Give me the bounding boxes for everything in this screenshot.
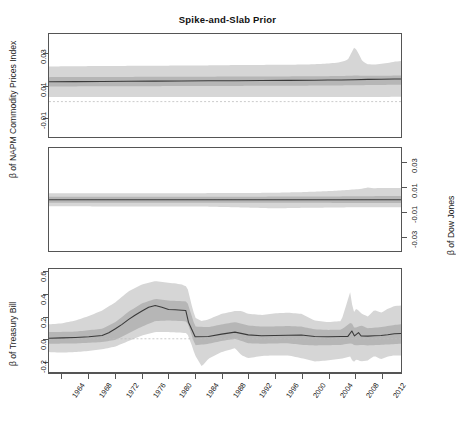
panel-dow-jones: [48, 147, 402, 252]
panel-tbill-y-axis-title: β of Treasury Bill: [8, 302, 18, 366]
y-tick-label: -0.01: [39, 112, 48, 129]
x-tick-mark: [355, 374, 356, 379]
y-tick-mark: [402, 187, 407, 188]
y-tick-mark: [402, 237, 407, 238]
x-tick-label: 1972: [124, 381, 141, 400]
panel-dow-plot: [49, 148, 401, 251]
y-tick-label: 0.03: [410, 158, 419, 173]
x-tick-label: 1988: [231, 381, 248, 400]
x-tick-mark: [382, 374, 383, 379]
x-tick-mark: [195, 374, 196, 379]
y-tick-label: 0.6: [39, 272, 48, 283]
y-tick-mark: [402, 162, 407, 163]
y-tick-mark: [402, 212, 407, 213]
y-tick-label: 0.4: [39, 294, 48, 305]
x-tick-label: 2008: [364, 381, 381, 400]
band-outer: [49, 48, 401, 97]
x-tick-mark: [168, 374, 169, 379]
x-tick-label: 1992: [257, 381, 274, 400]
x-tick-label: 2000: [311, 381, 328, 400]
panel-dow-y-axis-title: β of Dow Jones: [446, 196, 456, 255]
y-tick-label: 0.01: [410, 183, 419, 198]
y-tick-label: 0.0: [39, 340, 48, 351]
y-tick-label: 0.03: [39, 49, 48, 64]
band-outer: [49, 281, 401, 366]
x-tick-label: 2004: [338, 381, 355, 400]
y-tick-label: 0.01: [39, 82, 48, 97]
x-tick-mark: [329, 374, 330, 379]
y-tick-label: -0.03: [410, 231, 419, 248]
panel-napm-y-axis-title: β of NAPM Commodity Prices Index: [8, 41, 18, 178]
x-tick-mark: [222, 374, 223, 379]
x-tick-mark: [115, 374, 116, 379]
x-axis-line: [48, 373, 402, 374]
x-tick-label: 2012: [391, 381, 408, 400]
x-tick-mark: [302, 374, 303, 379]
panel-treasury-bill: [48, 268, 402, 373]
panel-napm-plot: [49, 34, 401, 137]
x-tick-label: 1964: [70, 381, 87, 400]
y-tick-label: -0.01: [410, 206, 419, 223]
y-tick-label: 0.2: [39, 317, 48, 328]
x-tick-mark: [88, 374, 89, 379]
y-tick-label: -0.2: [39, 360, 48, 373]
x-tick-mark: [142, 374, 143, 379]
x-tick-label: 1980: [177, 381, 194, 400]
panel-tbill-plot: [49, 269, 401, 372]
x-tick-mark: [275, 374, 276, 379]
chart-title: Spike-and-Slab Prior: [0, 14, 455, 25]
x-tick-label: 1996: [284, 381, 301, 400]
panel-napm-commodity-prices: [48, 33, 402, 138]
x-tick-label: 1976: [151, 381, 168, 400]
x-tick-label: 1968: [97, 381, 114, 400]
x-tick-mark: [248, 374, 249, 379]
x-tick-mark: [61, 374, 62, 379]
x-tick-label: 1984: [204, 381, 221, 400]
